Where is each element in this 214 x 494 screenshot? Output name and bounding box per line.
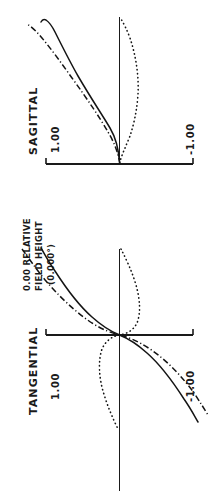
sagittal-title: SAGITTAL (27, 87, 40, 155)
tangential-tick-label-negative: -1.00 (185, 370, 196, 402)
tangential-title: TANGENTIAL (27, 327, 40, 415)
tangential-tick-label-positive: 1.00 (50, 373, 61, 400)
sagittal-tick-label-negative: -1.00 (185, 123, 196, 155)
sagittal-curve-dotted (120, 19, 139, 163)
sagittal-tick-label-positive: 1.00 (50, 126, 61, 153)
sagittal-curve-dashdot (27, 24, 120, 164)
ray-aberration-figure: SAGITTAL 1.00 -1.00 0.00 RELATIVE FIELD … (0, 0, 214, 494)
